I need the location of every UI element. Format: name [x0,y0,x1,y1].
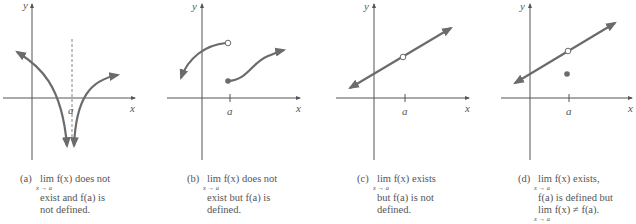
panel-a-graph: y x a [3,0,135,160]
x-axis-label: x [464,102,470,114]
right-branch-curve [228,50,284,81]
open-circle [565,48,571,54]
lim-subscript: x → a [373,185,497,191]
left-branch-curve [181,43,226,78]
caption-line-2: exist but f(a) is [207,192,327,204]
y-axis-label: y [191,0,197,12]
x-axis-label: x [627,102,633,114]
open-circle [225,40,231,46]
open-circle [400,54,406,60]
a-tick-label: a [68,104,74,116]
panel-b-graph: y x a [167,0,301,160]
caption-line-2: exist and f(a) is [40,192,160,204]
caption-line-3: defined. [207,204,327,216]
lim-subscript-2: x → a [534,216,636,222]
filled-dot [564,71,570,77]
caption-line-2: f(a) is defined but [538,192,636,204]
filled-dot [225,78,231,84]
caption-line-2: but f(a) is not [377,192,497,204]
caption-label: (a) [20,173,32,185]
caption-line-1: lim f(x) exists [377,173,497,185]
caption-line-3: defined. [377,204,497,216]
caption-line-1: lim f(x) does not [40,173,160,185]
caption-line-1: lim f(x) does not [207,173,327,185]
panel-d-graph: y x a [501,0,633,160]
a-tick-label: a [227,105,233,117]
caption-line-1: lim f(x) exists, [538,173,636,185]
left-branch-curve [17,52,67,146]
caption-line-3: not defined. [40,204,160,216]
x-axis-label: x [295,102,301,114]
x-axis-label: x [129,102,135,114]
y-axis-label: y [22,0,28,11]
a-tick-label: a [566,105,572,117]
a-tick-label: a [402,105,408,117]
lim-subscript: x → a [203,185,327,191]
caption-label: (c) [357,173,369,185]
caption-line-3: lim f(x) ≠ f(a). [538,204,636,216]
caption-label: (d) [518,173,530,185]
panel-c-graph: y x a [336,0,470,160]
right-branch-curve [74,75,118,146]
lim-subscript: x → a [36,185,160,191]
y-axis-label: y [363,0,369,12]
y-axis-label: y [519,0,525,12]
caption-label: (b) [187,173,199,185]
lim-subscript: x → a [534,185,636,191]
